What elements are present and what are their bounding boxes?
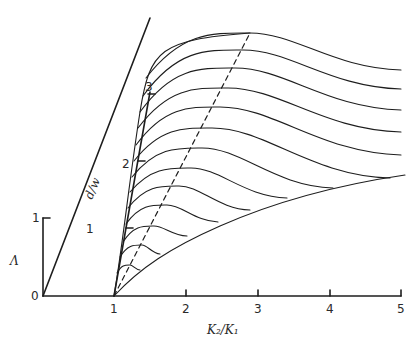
origin-label: 0 xyxy=(31,289,39,303)
family-curve xyxy=(140,68,401,112)
lambda-axis-label: Λ xyxy=(9,254,19,268)
curve-family xyxy=(117,33,401,273)
x-axis-label: K₂/K₁ xyxy=(206,323,239,337)
diagram-canvas: 0 1 Λ 1 2 3 4 5 K₂/K₁ 1 2 3 d/w xyxy=(0,0,419,348)
x-tick-label-4: 4 xyxy=(326,302,334,316)
x-tick-label-5: 5 xyxy=(397,302,405,316)
x-axis-ticks xyxy=(186,290,401,296)
dw-tick-label-3: 3 xyxy=(145,80,153,94)
x-tick-label-3: 3 xyxy=(254,302,262,316)
x-tick-label-1: 1 xyxy=(110,302,118,316)
x-tick-label-2: 2 xyxy=(182,302,190,316)
family-curve xyxy=(130,168,287,198)
dw-axis-label: d/w xyxy=(82,175,103,201)
lambda-tick-label-1: 1 xyxy=(32,211,40,225)
family-curve xyxy=(134,128,390,178)
family-curve xyxy=(143,50,401,96)
family-curve xyxy=(138,88,401,132)
family-curve xyxy=(126,205,218,224)
family-curve xyxy=(146,33,401,78)
family-curve xyxy=(128,186,250,210)
maxima-locus-dashed-line xyxy=(114,33,250,296)
dw-tick-label-2: 2 xyxy=(122,157,130,171)
dw-tick-label-1: 1 xyxy=(86,222,94,236)
